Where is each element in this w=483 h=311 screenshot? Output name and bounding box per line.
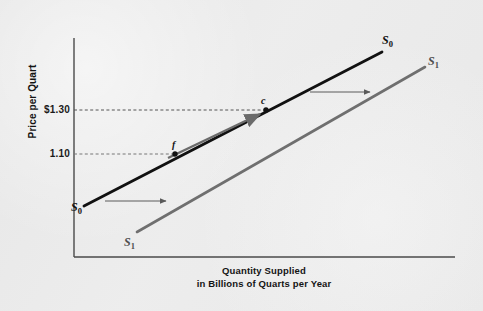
movement-arrow-along-curve xyxy=(168,114,260,158)
curve-label-s0-top: S0 xyxy=(382,33,393,49)
data-point-f xyxy=(172,151,177,156)
curve-label-s1-top-sub: 1 xyxy=(435,60,439,70)
supply-curve-figure: $1.30 1.10 Price per Quart Quantity Supp… xyxy=(0,0,483,311)
x-axis-title: Quantity Supplied in Billions of Quarts … xyxy=(73,264,455,290)
data-point-c xyxy=(263,107,268,112)
y-tick-label-130: $1.30 xyxy=(34,104,70,115)
x-axis-title-line2: in Billions of Quarts per Year xyxy=(73,277,455,290)
curve-label-s1-bottom: S1 xyxy=(124,235,135,251)
curve-label-s0-top-sub: 0 xyxy=(389,39,393,49)
supply-curve-s0 xyxy=(84,52,382,206)
x-axis-title-line1: Quantity Supplied xyxy=(73,264,455,277)
y-axis-title: Price per Quart xyxy=(27,47,38,157)
y-tick-label-110: 1.10 xyxy=(34,148,70,159)
curve-label-s1-top: S1 xyxy=(428,54,439,70)
curve-label-s1-bottom-sub: 1 xyxy=(131,241,135,251)
curve-label-s0-top-base: S xyxy=(382,33,389,47)
point-label-c: c xyxy=(261,95,265,106)
supply-curve-s1 xyxy=(137,67,425,232)
curve-label-s0-bottom-sub: 0 xyxy=(78,206,82,216)
curve-label-s0-bottom: S0 xyxy=(71,200,82,216)
curve-label-s1-bottom-base: S xyxy=(124,235,131,249)
point-label-f: f xyxy=(172,139,175,150)
curve-label-s1-top-base: S xyxy=(428,54,435,68)
curve-label-s0-bottom-base: S xyxy=(71,200,78,214)
